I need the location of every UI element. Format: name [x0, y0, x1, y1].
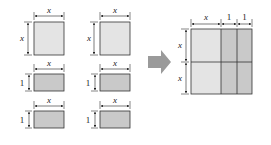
tile-rect-4: x 1 [86, 95, 130, 128]
width-label: x [112, 5, 117, 15]
algebra-tiles-diagram: x x x x x 1 x 1 [0, 0, 271, 145]
top-label-x: x [203, 12, 208, 22]
width-label: x [46, 95, 51, 105]
tile-rect-1: x 1 [20, 58, 64, 91]
tile-rect-2: x 1 [86, 58, 130, 91]
side-label-x2: x [177, 73, 182, 83]
height-label: x [19, 33, 24, 43]
width-label: x [46, 58, 51, 68]
width-label: x [112, 58, 117, 68]
width-label: x [46, 5, 51, 15]
tile-square-2: x x [86, 5, 130, 55]
right-arrow-icon [148, 50, 171, 74]
top-label-1: 1 [227, 12, 232, 22]
height-label: 1 [86, 78, 91, 88]
side-label-x: x [177, 40, 182, 50]
height-label: x [86, 33, 91, 43]
tile-square-1: x x [19, 5, 64, 55]
width-label: x [112, 95, 117, 105]
height-label: 1 [20, 115, 25, 125]
tile-rect-3: x 1 [20, 95, 64, 128]
height-label: 1 [20, 78, 25, 88]
combined-rectangle: x 1 1 x x [177, 12, 252, 94]
height-label: 1 [86, 115, 91, 125]
top-label-1b: 1 [242, 12, 247, 22]
